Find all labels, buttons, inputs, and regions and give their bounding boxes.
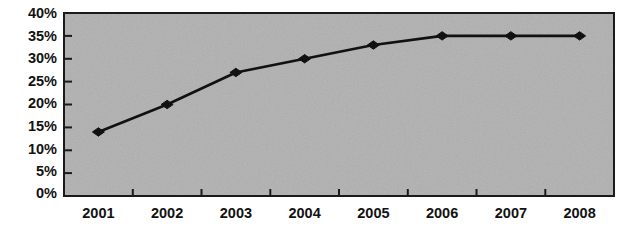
y-axis-label-0: 0% — [36, 185, 57, 201]
x-axis-label-2005: 2005 — [357, 205, 389, 221]
x-axis-label-2002: 2002 — [151, 205, 183, 221]
x-axis-label-2003: 2003 — [220, 205, 252, 221]
y-axis-label-20: 20% — [28, 95, 57, 111]
y-axis-label-15: 15% — [28, 118, 57, 134]
line-chart: 40% 35% 30% 25% 20% 15% 10% 5% 0% — [0, 0, 638, 234]
plot-background-texture — [64, 13, 614, 196]
x-axis-label-2004: 2004 — [288, 205, 320, 221]
y-axis-label-5: 5% — [36, 163, 57, 179]
x-axis-label-2008: 2008 — [563, 205, 595, 221]
x-axis-label-2007: 2007 — [495, 205, 527, 221]
plot-area — [64, 13, 614, 196]
y-axis-label-35: 35% — [28, 28, 57, 44]
x-axis-label-2001: 2001 — [82, 205, 114, 221]
y-axis-label-30: 30% — [28, 50, 57, 66]
chart-canvas: 40% 35% 30% 25% 20% 15% 10% 5% 0% — [0, 0, 638, 234]
y-axis-label-10: 10% — [28, 141, 57, 157]
x-axis-label-2006: 2006 — [426, 205, 458, 221]
y-axis-label-25: 25% — [28, 73, 57, 89]
y-axis-label-40: 40% — [28, 5, 57, 21]
